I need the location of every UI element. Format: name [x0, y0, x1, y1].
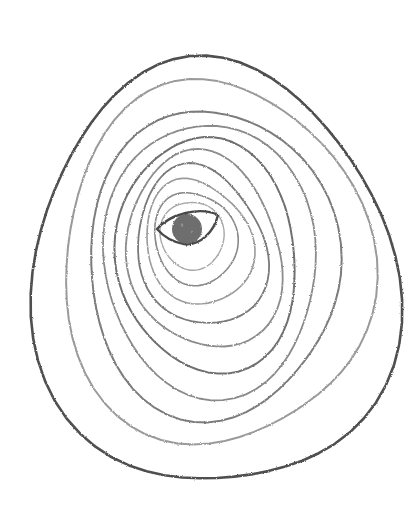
- iris-highlight: [191, 231, 193, 233]
- contour-ring: [138, 163, 269, 323]
- contour-rings: [31, 56, 402, 479]
- contour-ring: [103, 126, 316, 401]
- contour-ring: [126, 149, 283, 347]
- sketch-svg: [0, 0, 416, 521]
- eye-iris: [172, 214, 202, 244]
- eye-icon: [157, 211, 218, 244]
- contour-ring: [91, 112, 342, 423]
- iris-highlight: [181, 224, 184, 227]
- contour-ring: [31, 56, 402, 479]
